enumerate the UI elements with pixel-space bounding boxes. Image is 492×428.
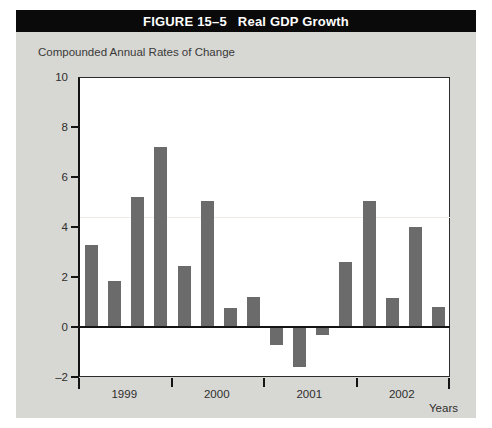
x-axis-group-label: 2001 <box>296 388 322 400</box>
bar <box>386 298 399 327</box>
y-axis-labels: 1086420–2 <box>42 77 68 377</box>
figure-title-bar: FIGURE 15–5 Real GDP Growth <box>16 10 476 32</box>
x-axis-labels: 1999200020012002 <box>78 388 450 404</box>
figure-number: FIGURE 15–5 <box>143 14 227 29</box>
y-axis-tick <box>71 326 79 328</box>
y-axis-tick <box>71 126 79 128</box>
bar <box>363 201 376 327</box>
y-axis-tick <box>71 176 79 178</box>
x-axis-group-label: 1999 <box>111 388 137 400</box>
bar <box>154 147 167 327</box>
y-axis-tick-label: 4 <box>42 221 68 233</box>
bar <box>247 297 260 327</box>
bar <box>201 201 214 327</box>
plot-bottom-border <box>79 376 450 377</box>
bar <box>339 262 352 327</box>
chart-subtitle: Compounded Annual Rates of Change <box>38 46 235 58</box>
y-axis-tick <box>71 226 79 228</box>
x-axis-tick <box>356 378 358 387</box>
y-axis-tick-label: 0 <box>42 321 68 333</box>
y-axis-tick-label: 2 <box>42 271 68 283</box>
bar <box>85 245 98 328</box>
bar <box>131 197 144 327</box>
bar <box>316 327 329 335</box>
plot-area <box>78 77 450 377</box>
x-axis-group-label: 2002 <box>389 388 415 400</box>
y-axis-tick-label: 6 <box>42 171 68 183</box>
x-axis-title: Years <box>429 402 458 414</box>
y-axis-tick-label: 10 <box>42 71 68 83</box>
plot-top-border <box>79 77 450 78</box>
figure-container: FIGURE 15–5 Real GDP Growth Compounded A… <box>16 10 476 418</box>
bar <box>409 227 422 327</box>
figure-title: Real GDP Growth <box>238 14 349 29</box>
bar <box>178 266 191 327</box>
x-axis-group-label: 2000 <box>204 388 230 400</box>
y-axis-tick-label: 8 <box>42 121 68 133</box>
plot-right-border <box>449 77 450 377</box>
bar <box>224 308 237 327</box>
y-axis-tick <box>71 276 79 278</box>
zero-baseline <box>76 326 450 328</box>
x-axis-tick <box>263 378 265 387</box>
bar <box>108 281 121 327</box>
bar <box>432 307 445 327</box>
y-axis-tick-label: –2 <box>42 371 68 383</box>
bar <box>270 327 283 345</box>
bar <box>293 327 306 367</box>
x-axis-tick <box>171 378 173 387</box>
